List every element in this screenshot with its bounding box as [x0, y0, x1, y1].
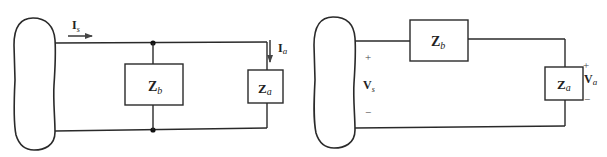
vs-minus-sign: −	[365, 106, 371, 118]
ia-label: Ia	[278, 41, 288, 56]
bottom-wire	[355, 126, 565, 128]
va-plus-sign: +	[583, 59, 589, 71]
vs-plus-sign: +	[365, 51, 371, 63]
series-circuit: Zb Za + Vs − + Va −	[314, 17, 598, 148]
bottom-wire	[55, 128, 267, 131]
vs-label: Vs	[363, 78, 375, 94]
top-wire	[55, 42, 267, 43]
is-label: Is	[72, 18, 80, 34]
circuit-diagrams: Zb Za Is Ia Zb Za + Vs − + Va −	[0, 0, 607, 157]
source-network-blob	[314, 17, 355, 148]
va-minus-sign: −	[584, 93, 590, 105]
source-network-blob	[14, 18, 55, 150]
va-label: Va	[584, 72, 598, 87]
parallel-circuit: Zb Za Is Ia	[14, 18, 288, 150]
